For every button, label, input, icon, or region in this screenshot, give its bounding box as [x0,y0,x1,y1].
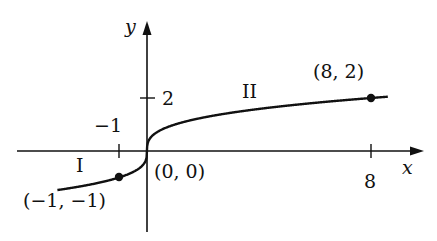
cube-root-curve [57,97,387,190]
y-tick-label-2: 2 [162,87,174,109]
x-tick-label-8: 8 [364,170,376,192]
point-label-8-2: (8, 2) [313,60,364,82]
x-tick-label-neg1: −1 [94,114,122,136]
point-label-origin: (0, 0) [154,160,205,182]
y-axis-label: y [124,15,136,37]
region-label-II: II [242,80,257,102]
point-label-neg1-neg1: (−1, −1) [23,189,106,211]
x-axis-arrow-icon [410,147,424,156]
y-axis-arrow-icon [143,21,152,35]
point-neg1-neg1 [115,173,123,181]
region-label-I: I [76,154,84,176]
x-axis-label: x [402,156,413,178]
point-8-2 [367,94,375,102]
cube-root-graph: y x 2 −1 8 (−1, −1) (0, 0) (8, 2) I II [0,0,437,241]
